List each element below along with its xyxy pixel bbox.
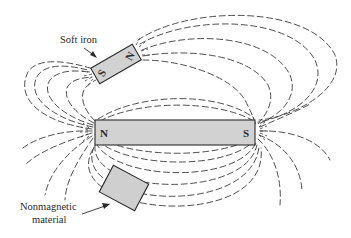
bar-magnet: N S: [95, 120, 255, 145]
magnetic-field-diagram: N S S N Soft iron Nonmagnetic material: [0, 0, 351, 238]
soft-iron-arrow: [84, 48, 97, 58]
field-lines-top: [25, 15, 337, 129]
soft-iron-label: Soft iron: [60, 34, 98, 45]
field-lines-left-open: [20, 123, 93, 200]
bar-magnet-south-label: S: [243, 127, 249, 139]
nonmagnetic-label-line1: Nonmagnetic: [20, 201, 77, 212]
nonmagnetic-arrow: [82, 203, 110, 214]
bar-magnet-north-label: N: [100, 127, 108, 139]
soft-iron: S N: [91, 44, 142, 84]
nonmagnetic-label-line2: material: [32, 214, 66, 225]
